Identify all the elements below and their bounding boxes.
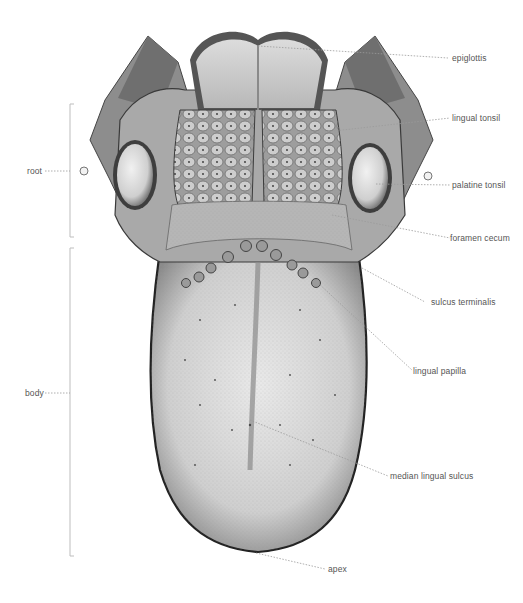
epiglottis-shape <box>190 32 328 110</box>
leader-sulcus-terminalis <box>362 268 425 302</box>
label-root: root <box>27 166 42 176</box>
leader-apex <box>256 553 325 569</box>
label-sulcus-terminalis: sulcus terminalis <box>431 297 496 307</box>
label-foramen-cecum: foramen cecum <box>450 233 510 243</box>
label-epiglottis: epiglottis <box>452 53 487 63</box>
tongue-anatomy-diagram: root body epiglottis lingual tonsil pala… <box>0 0 523 603</box>
root-bracket <box>70 104 74 237</box>
label-body: body <box>25 388 44 398</box>
label-apex: apex <box>328 564 347 574</box>
label-lingual-tonsil: lingual tonsil <box>452 113 500 123</box>
label-lingual-papilla: lingual papilla <box>413 366 466 376</box>
label-median-lingual-sulcus: median lingual sulcus <box>390 471 473 481</box>
label-palatine-tonsil: palatine tonsil <box>452 180 505 190</box>
body-bracket <box>70 248 74 556</box>
region-brackets <box>70 104 74 556</box>
